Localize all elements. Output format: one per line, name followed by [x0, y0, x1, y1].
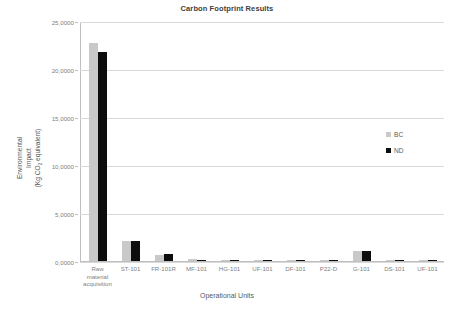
- y-axis-tick-label: 10,0000: [52, 163, 74, 170]
- y-axis-tick-mark: [75, 166, 78, 167]
- bar-group: [279, 22, 312, 261]
- y-axis-tick-label: 15,0000: [52, 115, 74, 122]
- bar-nd[interactable]: [329, 260, 338, 261]
- bar-bc[interactable]: [287, 260, 296, 261]
- y-axis-tick-label: 20,0000: [52, 67, 74, 74]
- chart-container: Carbon Footprint Results Environmental I…: [0, 0, 454, 309]
- legend-swatch-icon: [386, 132, 391, 137]
- y-axis-tick-labels: 0,00005,000010,000015,000020,000025,0000: [36, 22, 78, 262]
- bar-bc[interactable]: [320, 260, 329, 261]
- legend-label: ND: [394, 147, 404, 154]
- bar-bc[interactable]: [155, 255, 164, 261]
- x-axis-tick-label: MF-101: [180, 265, 213, 288]
- y-axis-tick-label: 25,0000: [52, 19, 74, 26]
- x-axis-tick-label: DS-101: [378, 265, 411, 288]
- x-axis-tick-label: ST-101: [114, 265, 147, 288]
- bar-nd[interactable]: [230, 260, 239, 261]
- bar-group: [345, 22, 378, 261]
- bar-group: [180, 22, 213, 261]
- bar-nd[interactable]: [296, 260, 305, 261]
- y-axis-tick-mark: [75, 118, 78, 119]
- x-axis-tick-label: UF-101: [246, 265, 279, 288]
- y-axis-tick-label: 0,0000: [55, 259, 74, 266]
- bar-bc[interactable]: [221, 260, 230, 261]
- y-axis-tick-mark: [75, 70, 78, 71]
- bar-nd[interactable]: [362, 251, 371, 261]
- y-axis-tick-mark: [75, 22, 78, 23]
- bar-nd[interactable]: [428, 260, 437, 261]
- bar-nd[interactable]: [197, 260, 206, 261]
- bar-group: [213, 22, 246, 261]
- y-axis-title-line-1: Environmental: [15, 137, 24, 179]
- bar-bc[interactable]: [122, 241, 131, 261]
- x-axis-title: Operational Units: [0, 292, 454, 299]
- x-axis-tick-label: P22-D: [312, 265, 345, 288]
- bar-nd[interactable]: [263, 260, 272, 261]
- bar-bc[interactable]: [419, 260, 428, 261]
- x-axis-tick-label: FR-101R: [147, 265, 180, 288]
- bar-bc[interactable]: [353, 251, 362, 261]
- x-axis-tick-label: UF-101: [411, 265, 444, 288]
- x-axis-tick-label: DF-101: [279, 265, 312, 288]
- y-axis-tick-mark: [75, 214, 78, 215]
- bar-nd[interactable]: [131, 241, 140, 261]
- bar-group: [114, 22, 147, 261]
- y-axis-tick-mark: [75, 262, 78, 263]
- bar-group: [312, 22, 345, 261]
- x-axis-tick-label: HG-101: [213, 265, 246, 288]
- bar-nd[interactable]: [98, 52, 107, 261]
- bar-group: [81, 22, 114, 261]
- bar-group: [411, 22, 444, 261]
- bar-bc[interactable]: [386, 260, 395, 261]
- chart-legend: BCND: [386, 131, 404, 154]
- y-axis-tick-label: 5,0000: [55, 211, 74, 218]
- bar-bc[interactable]: [188, 259, 197, 261]
- bar-nd[interactable]: [164, 254, 173, 261]
- x-axis-tick-labels: Raw material acquisitionST-101FR-101RMF-…: [81, 265, 444, 288]
- bar-bc[interactable]: [254, 260, 263, 261]
- bar-nd[interactable]: [395, 260, 404, 261]
- legend-swatch-icon: [386, 148, 391, 153]
- x-axis-tick-label: Raw material acquisition: [81, 265, 114, 288]
- y-axis-title-line-2: Impact: [24, 148, 33, 168]
- bar-group: [147, 22, 180, 261]
- chart-title: Carbon Footprint Results: [0, 4, 454, 13]
- x-axis-tick-label: G-101: [345, 265, 378, 288]
- legend-item[interactable]: BC: [386, 131, 404, 138]
- bar-group: [246, 22, 279, 261]
- gridline: [80, 262, 444, 263]
- legend-label: BC: [394, 131, 403, 138]
- legend-item[interactable]: ND: [386, 147, 404, 154]
- bar-bc[interactable]: [89, 43, 98, 261]
